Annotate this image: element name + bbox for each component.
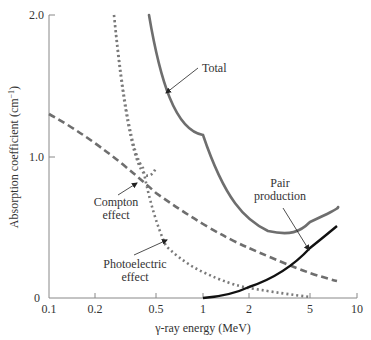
y-tick-label: 1.0 [29,150,44,164]
total-curve [149,15,338,233]
annotation-total: Total [166,61,227,93]
x-tick-label: 0.1 [42,302,57,316]
absorption-coefficient-chart: 2.0 1.0 0 0.1 0.2 0.5 1 2 5 10 γ-ray ene… [0,0,371,340]
compton-label: Compton [94,195,139,209]
y-tick-label: 0 [34,291,40,305]
y-axis-label: Absorption coefficient (cm−1) [7,86,21,228]
compton-label: effect [102,208,130,222]
x-axis-label: γ-ray energy (MeV) [154,321,251,335]
y-tick-label: 2.0 [29,8,44,22]
photoelectric-label: effect [121,270,149,284]
x-tick-label: 1 [200,302,206,316]
photoelectric-label: Photoelectric [103,257,166,271]
annotation-pair-production: Pair production [254,176,309,250]
y-ticks: 2.0 1.0 0 [29,8,55,305]
x-tick-label: 5 [307,302,313,316]
pair-production-label: Pair [270,176,289,190]
annotation-photoelectric: Photoelectric effect [103,240,167,284]
x-tick-label: 0.5 [149,302,164,316]
axes [49,15,357,298]
x-tick-label: 10 [351,302,363,316]
pair-production-label: production [254,189,306,203]
x-tick-label: 2 [246,302,252,316]
total-label: Total [202,61,227,75]
annotation-compton: Compton effect [94,183,139,222]
x-ticks: 0.1 0.2 0.5 1 2 5 10 [42,293,364,316]
x-tick-label: 0.2 [88,302,103,316]
